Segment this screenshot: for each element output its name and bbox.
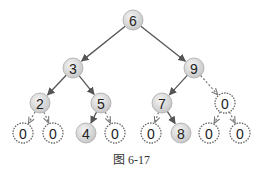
node-label: 0 [19, 126, 27, 142]
tree-node: 3 [63, 58, 83, 78]
node-label: 0 [49, 126, 57, 142]
null-node: 0 [43, 123, 63, 143]
null-node: 0 [141, 123, 161, 143]
null-node: 0 [230, 123, 250, 143]
null-node: 0 [13, 123, 33, 143]
child-edge [91, 112, 97, 123]
node-label: 7 [158, 96, 166, 112]
tree-node: 7 [152, 93, 172, 113]
tree-node: 4 [76, 123, 96, 143]
child-edge [48, 75, 67, 95]
null-child-edge [105, 112, 110, 123]
null-node: 0 [199, 123, 219, 143]
null-node: 0 [105, 123, 125, 143]
node-label: 0 [236, 126, 244, 142]
node-label: 2 [36, 96, 44, 112]
tree-node: 2 [30, 93, 50, 113]
null-node: 0 [215, 93, 235, 113]
null-child-edge [201, 75, 218, 94]
tree-edges [28, 26, 235, 124]
node-label: 0 [111, 126, 119, 142]
node-label: 8 [177, 126, 185, 142]
tree-node: 8 [171, 123, 191, 143]
child-edge [169, 75, 187, 95]
child-edge [79, 76, 94, 95]
node-label: 0 [147, 126, 155, 142]
node-label: 0 [205, 126, 213, 142]
node-label: 0 [221, 96, 229, 112]
child-edge [167, 111, 175, 123]
node-label: 5 [97, 96, 105, 112]
child-edge [82, 26, 126, 61]
tree-node: 9 [184, 58, 204, 78]
null-child-edge [28, 112, 35, 124]
child-edge [141, 26, 185, 61]
null-child-edge [155, 112, 159, 122]
node-label: 9 [190, 61, 198, 77]
tree-node: 6 [123, 10, 143, 30]
figure-caption: 图 6-17 [0, 150, 263, 168]
null-child-edge [214, 112, 220, 123]
null-child-edge [44, 112, 49, 123]
node-label: 6 [129, 13, 137, 29]
null-child-edge [229, 112, 235, 123]
node-label: 3 [69, 61, 77, 77]
node-label: 4 [82, 126, 90, 142]
tree-node: 5 [91, 93, 111, 113]
